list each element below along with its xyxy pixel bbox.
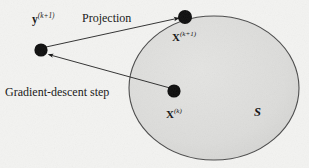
label-y-next-superscript: (k+1) (38, 11, 55, 20)
label-gradient-descent-step: Gradient-descent step (5, 86, 109, 98)
projected-gradient-descent-diagram: y(k+1) Projection X(k+1) Gradient-descen… (0, 0, 309, 168)
point-x-next (178, 10, 192, 24)
label-y-next: y(k+1) (32, 12, 55, 25)
point-x-current (167, 84, 180, 97)
label-x-next-base: X (172, 31, 180, 43)
label-x-current-base: X (166, 108, 174, 120)
label-region-s: S (254, 106, 261, 119)
point-y-next (34, 43, 47, 56)
label-x-current: X(k) (166, 108, 182, 120)
label-projection: Projection (82, 12, 131, 24)
feasible-region-ellipse (129, 16, 299, 160)
label-x-next: X(k+1) (172, 31, 196, 43)
label-x-next-superscript: (k+1) (180, 30, 196, 38)
label-x-current-superscript: (k) (174, 107, 182, 115)
